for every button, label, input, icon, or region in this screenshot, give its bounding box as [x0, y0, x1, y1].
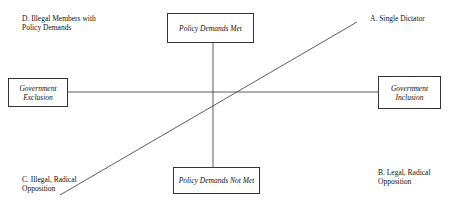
quadrant-c-label: C. Illegal, Radical Opposition — [22, 175, 77, 193]
government-exclusion-line1: Government — [19, 84, 56, 93]
policy-demands-not-met-box: Policy Demands Not Met — [173, 167, 260, 194]
quadrant-a-label: A. Single Dictator — [370, 14, 425, 23]
government-exclusion-line2: Exclusion — [23, 93, 53, 102]
government-inclusion-box: Government Inclusion — [378, 76, 441, 109]
quadrant-b-label: B. Legal, Radical Opposition — [378, 168, 430, 186]
policy-demands-not-met-label: Policy Demands Not Met — [179, 176, 255, 185]
government-exclusion-box: Government Exclusion — [8, 78, 68, 107]
government-inclusion-line2: Inclusion — [396, 93, 424, 102]
policy-demands-met-box: Policy Demands Met — [167, 13, 254, 43]
policy-demands-met-label: Policy Demands Met — [179, 24, 242, 33]
government-inclusion-line1: Government — [391, 84, 428, 93]
quadrant-d-label: D. Illegal Members with Policy Demands — [22, 14, 96, 32]
